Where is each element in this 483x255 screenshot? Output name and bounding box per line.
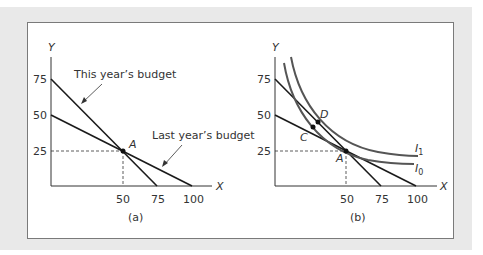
this-year-budget-label: This year’s budget xyxy=(73,68,177,81)
caption-a: (a) xyxy=(128,211,143,224)
last-year-arrow xyxy=(164,145,182,165)
y-tick-25-b: 25 xyxy=(257,145,271,158)
y-tick-25-a: 25 xyxy=(33,145,47,158)
panel-b: Y X 75 50 25 50 75 100 A C D I1 I0 (b) xyxy=(257,41,448,224)
this-year-budget-line-b xyxy=(275,79,381,186)
point-a-dot xyxy=(121,149,126,154)
y-axis-label-a: Y xyxy=(48,41,56,54)
point-d-label: D xyxy=(320,108,328,121)
x-tick-75-b: 75 xyxy=(375,193,389,206)
x-axis-label-b: X xyxy=(439,180,448,193)
panel-a: Y X 75 50 25 50 75 100 A This year’s bud… xyxy=(33,41,255,224)
x-axis-label-a: X xyxy=(215,180,224,193)
x-tick-50-b: 50 xyxy=(340,193,354,206)
x-tick-100-a: 100 xyxy=(183,193,204,206)
curve-i0-label: I0 xyxy=(415,162,423,177)
last-year-budget-label: Last year’s budget xyxy=(152,129,255,142)
point-c-label: C xyxy=(300,131,308,144)
curve-i1-label: I1 xyxy=(415,142,423,157)
caption-b: (b) xyxy=(350,211,366,224)
point-c-dot xyxy=(311,125,316,130)
x-tick-100-b: 100 xyxy=(407,193,428,206)
y-tick-50-a: 50 xyxy=(33,109,47,122)
y-tick-75-b: 75 xyxy=(257,73,271,86)
this-year-budget-line xyxy=(51,79,157,186)
this-year-arrowhead-icon xyxy=(81,97,87,104)
x-tick-75-a: 75 xyxy=(151,193,165,206)
indifference-curve-i0 xyxy=(284,63,414,164)
y-tick-75-a: 75 xyxy=(33,73,47,86)
point-a-label-b: A xyxy=(335,152,344,165)
y-tick-50-b: 50 xyxy=(257,109,271,122)
point-a-dot-b xyxy=(344,149,349,154)
indifference-curve-i1 xyxy=(291,57,418,156)
point-a-label: A xyxy=(128,138,137,151)
budget-diagram: Y X 75 50 25 50 75 100 A This year’s bud… xyxy=(0,0,483,255)
x-tick-50-a: 50 xyxy=(116,193,130,206)
y-axis-label-b: Y xyxy=(272,41,280,54)
